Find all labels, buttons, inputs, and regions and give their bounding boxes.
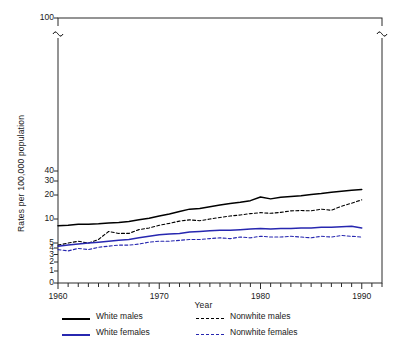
chart-legend: White malesNonwhite malesWhite femalesNo…	[0, 0, 407, 355]
legend-label: White females	[96, 327, 150, 337]
legend-label: Nonwhite females	[230, 327, 298, 337]
legend-label: Nonwhite males	[230, 311, 290, 321]
legend-label: White males	[96, 311, 143, 321]
legend-swatch-line	[196, 318, 224, 319]
legend-swatch-line	[196, 334, 224, 335]
legend-swatch-line	[62, 318, 90, 320]
legend-swatch-line	[62, 334, 90, 336]
chart-container: Rates per 100,000 population Year 012345…	[0, 0, 407, 355]
